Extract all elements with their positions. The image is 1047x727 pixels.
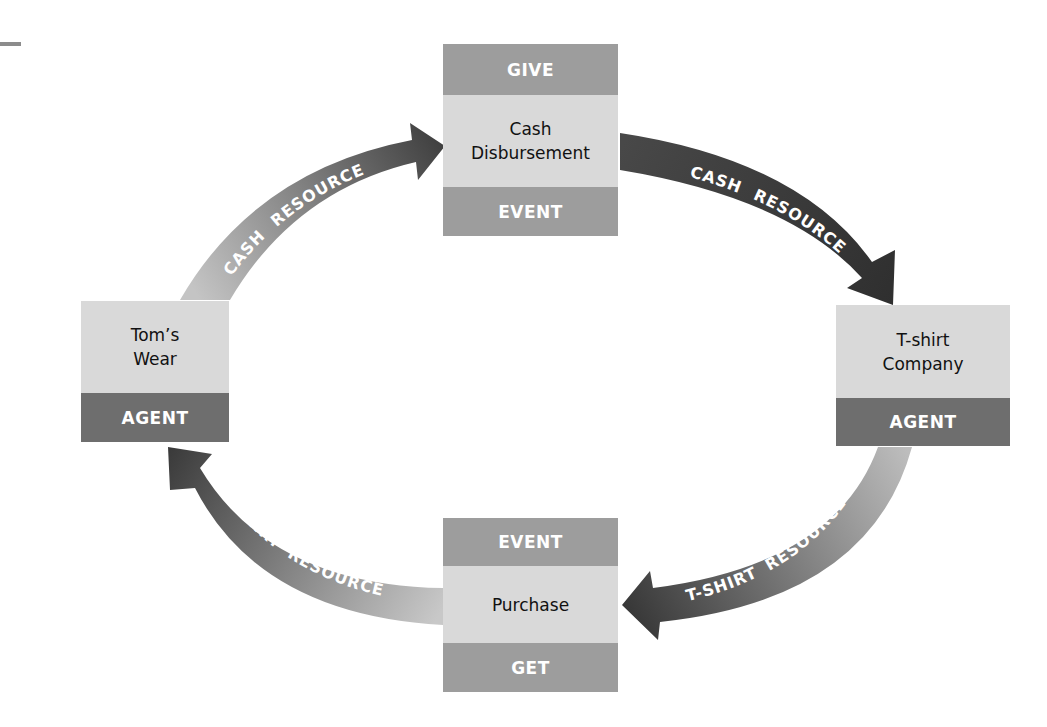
give-label: GIVE	[443, 44, 618, 95]
event-name: Purchase	[443, 566, 618, 643]
node-cash-disbursement: GIVE Cash Disbursement EVENT	[443, 44, 618, 236]
name-line: Tom’s	[131, 323, 180, 347]
arrow-label: CASHRESOURCE	[688, 162, 850, 257]
event-type-label: EVENT	[443, 518, 618, 566]
node-purchase: EVENT Purchase GET	[443, 518, 618, 692]
agent-name: Tom’s Wear	[81, 301, 229, 393]
name-line: Cash	[510, 117, 552, 141]
name-line: Wear	[133, 347, 177, 371]
agent-label: AGENT	[81, 393, 229, 442]
arrow-cash-resource-to-tshirt-company: CASHRESOURCE	[620, 133, 895, 305]
agent-name: T-shirt Company	[836, 305, 1010, 398]
event-name: Cash Disbursement	[443, 95, 618, 187]
agent-label: AGENT	[836, 398, 1010, 446]
name-line: Purchase	[492, 593, 569, 617]
node-tshirt-company: T-shirt Company AGENT	[836, 305, 1010, 446]
name-line: Disbursement	[471, 141, 590, 165]
arrow-cash-resource-to-disbursement: CASHRESOURCE	[180, 123, 445, 300]
node-toms-wear: Tom’s Wear AGENT	[81, 301, 229, 442]
name-line: T-shirt	[897, 328, 950, 352]
arrow-tshirt-resource-to-toms-wear	[168, 447, 443, 625]
event-type-label: EVENT	[443, 187, 618, 236]
get-label: GET	[443, 643, 618, 692]
rea-model-diagram: CASHRESOURCE CASHRESOURCE	[0, 0, 1047, 727]
name-line: Company	[883, 352, 964, 376]
